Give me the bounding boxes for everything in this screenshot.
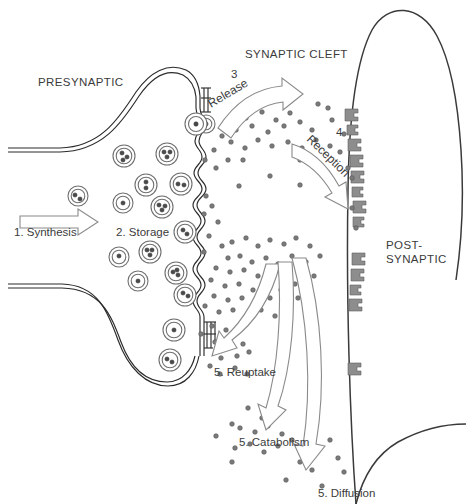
neurotransmitter-dot bbox=[354, 226, 359, 231]
neurotransmitter-dot bbox=[223, 284, 228, 289]
neurotransmitter-dot bbox=[214, 434, 219, 439]
synaptic-vesicle bbox=[165, 262, 187, 284]
neurotransmitter-dot bbox=[230, 422, 235, 427]
neurotransmitter-dot bbox=[270, 144, 275, 149]
neurotransmitter-dot bbox=[318, 254, 323, 259]
neurotransmitter-dot bbox=[244, 236, 249, 241]
neurotransmitter-dot bbox=[294, 236, 299, 241]
neurotransmitter-dot bbox=[202, 212, 207, 217]
neurotransmitter-dot bbox=[274, 118, 279, 123]
neurotransmitter-dot bbox=[298, 183, 303, 188]
neurotransmitter-dot bbox=[268, 174, 273, 179]
neurotransmitter-dot bbox=[238, 426, 243, 431]
neurotransmitter-dot bbox=[350, 206, 355, 211]
synaptic-vesicle bbox=[68, 186, 88, 206]
neurotransmitter-dot bbox=[298, 120, 303, 125]
neurotransmitter-dot bbox=[241, 158, 246, 163]
synaptic-vesicle bbox=[113, 193, 133, 213]
neurotransmitter-dot bbox=[350, 176, 355, 181]
receptor bbox=[348, 363, 361, 375]
neurotransmitter-dot bbox=[216, 220, 221, 225]
neurotransmitter-dot bbox=[253, 430, 258, 435]
neurotransmitter-dot bbox=[203, 304, 208, 309]
neurotransmitter-dot bbox=[316, 102, 321, 107]
synaptic-vesicle bbox=[170, 173, 192, 195]
neurotransmitter-dot bbox=[199, 332, 204, 337]
receptor bbox=[353, 201, 366, 213]
neurotransmitter-dot bbox=[212, 294, 217, 299]
neurotransmitter-dot bbox=[214, 166, 219, 171]
neurotransmitter-dot bbox=[219, 356, 224, 361]
neurotransmitter-dot bbox=[330, 118, 335, 123]
label-postsynaptic-line2: SYNAPTIC bbox=[386, 253, 447, 265]
label-storage: 2. Storage bbox=[116, 226, 169, 238]
neurotransmitter-dot bbox=[226, 158, 231, 163]
synaptic-vesicle bbox=[135, 174, 157, 196]
label-release-number: 3 bbox=[231, 68, 237, 80]
neurotransmitter-dot bbox=[210, 324, 215, 329]
neurotransmitter-dot bbox=[229, 140, 234, 145]
neurotransmitter-dot bbox=[312, 274, 317, 279]
neurotransmitter-dot bbox=[220, 244, 225, 249]
neurotransmitter-dot bbox=[250, 124, 255, 129]
neurotransmitter-dot bbox=[240, 296, 245, 301]
neurotransmitter-dot bbox=[235, 354, 240, 359]
neurotransmitter-dot bbox=[251, 288, 256, 293]
receptor bbox=[352, 253, 365, 265]
neurotransmitter-dot bbox=[282, 124, 287, 129]
neurotransmitter-dot bbox=[231, 308, 236, 313]
neurotransmitter-dot bbox=[256, 138, 261, 143]
label-reception-number: 4 bbox=[336, 126, 343, 138]
neurotransmitter-dot bbox=[204, 194, 209, 199]
neurotransmitter-dot bbox=[209, 278, 214, 283]
neurotransmitter-dot bbox=[282, 242, 287, 247]
label-synaptic-cleft: SYNAPTIC CLEFT bbox=[245, 48, 348, 60]
receptor bbox=[351, 269, 364, 281]
fusing-vesicle bbox=[185, 113, 207, 135]
receptor bbox=[350, 155, 363, 167]
neurotransmitter-dot bbox=[326, 106, 331, 111]
receptor bbox=[350, 285, 361, 295]
synaptic-vesicle bbox=[159, 349, 181, 371]
receptor bbox=[347, 125, 358, 135]
neurotransmitter-dot bbox=[286, 140, 291, 145]
label-presynaptic: PRESYNAPTIC bbox=[38, 76, 124, 88]
neurotransmitter-dot bbox=[237, 184, 242, 189]
label-diffusion: 5. Diffusion bbox=[318, 487, 375, 499]
neurotransmitter-dot bbox=[243, 146, 248, 151]
neurotransmitter-dot bbox=[220, 134, 225, 139]
neurotransmitter-dot bbox=[208, 364, 213, 369]
reuptake-arrow bbox=[212, 264, 280, 356]
synaptic-vesicle bbox=[128, 271, 148, 291]
neurotransmitter-dot bbox=[202, 250, 207, 255]
neurotransmitter-dot bbox=[308, 244, 313, 249]
synaptic-vesicle bbox=[174, 284, 196, 306]
synaptic-vesicle bbox=[113, 145, 135, 167]
vesicle-group bbox=[68, 115, 215, 371]
neurotransmitter-dot bbox=[203, 158, 208, 163]
neurotransmitter-dot bbox=[217, 310, 222, 315]
neurotransmitter-dot bbox=[256, 274, 261, 279]
diagram-canvas: PRESYNAPTIC SYNAPTIC CLEFT POST- SYNAPTI… bbox=[0, 0, 469, 504]
receptor bbox=[353, 217, 364, 227]
neurotransmitter-dot bbox=[230, 240, 235, 245]
neurotransmitter-dot bbox=[328, 438, 333, 443]
neurotransmitter-dot bbox=[233, 446, 238, 451]
neurotransmitter-dot bbox=[238, 254, 243, 259]
neurotransmitter-dot bbox=[266, 130, 271, 135]
neurotransmitter-dot bbox=[296, 296, 301, 301]
label-synthesis: 1. Synthesis bbox=[14, 226, 77, 238]
neurotransmitter-dot bbox=[224, 328, 229, 333]
receptor bbox=[348, 139, 361, 151]
neurotransmitter-dot bbox=[310, 468, 315, 473]
receptor bbox=[352, 187, 363, 197]
neurotransmitter-dot bbox=[338, 150, 343, 155]
receptor bbox=[349, 299, 362, 311]
neurotransmitter-dot bbox=[214, 266, 219, 271]
neurotransmitter-dot bbox=[284, 478, 289, 483]
neurotransmitter-dot bbox=[342, 470, 347, 475]
neurotransmitter-dot bbox=[241, 342, 246, 347]
neurotransmitter-dot bbox=[256, 244, 261, 249]
synaptic-transmission-diagram: PRESYNAPTIC SYNAPTIC CLEFT POST- SYNAPTI… bbox=[0, 0, 469, 504]
neurotransmitter-dot bbox=[210, 204, 215, 209]
